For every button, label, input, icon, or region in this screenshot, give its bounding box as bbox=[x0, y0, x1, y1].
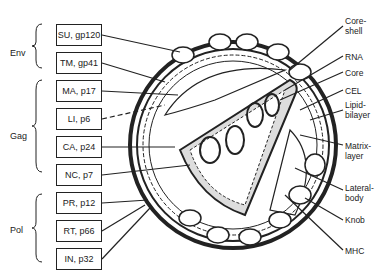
label-matrix-layer: Matrix- layer bbox=[345, 141, 371, 161]
protein-box-nc-p7: NC, p7 bbox=[56, 164, 102, 186]
protein-box-ca-p24: CA, p24 bbox=[56, 136, 102, 158]
label-core-shell: Core- shell bbox=[345, 16, 366, 36]
label-cel: CEL bbox=[345, 86, 362, 96]
label-mhc: MHC bbox=[345, 246, 364, 256]
group-braces bbox=[0, 0, 60, 280]
protein-box-li-p6: LI, p6 bbox=[56, 108, 102, 130]
label-knob: Knob bbox=[345, 215, 365, 225]
protein-box-in-p32: IN, p32 bbox=[56, 248, 102, 270]
protein-box-su-gp120: SU, gp120 bbox=[56, 24, 102, 46]
protein-box-rt-p66: RT, p66 bbox=[56, 220, 102, 242]
label-core: Core bbox=[345, 68, 363, 78]
label-lateral-body: Lateral- body bbox=[345, 183, 374, 203]
protein-box-pr-p12: PR, p12 bbox=[56, 192, 102, 214]
protein-box-tm-gp41: TM, gp41 bbox=[56, 52, 102, 74]
label-lipid-bilayer: Lipid- bilayer bbox=[345, 100, 370, 120]
protein-box-ma-p17: MA, p17 bbox=[56, 80, 102, 102]
label-rna: RNA bbox=[345, 52, 363, 62]
